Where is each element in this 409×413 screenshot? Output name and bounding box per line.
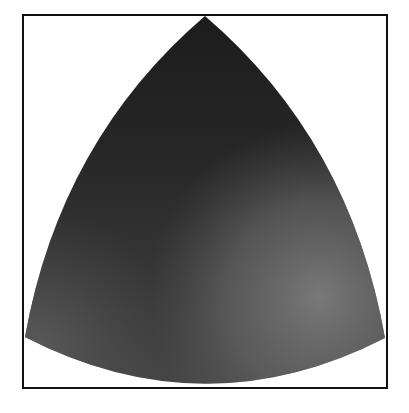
spherical-triangle-plot xyxy=(0,0,409,413)
shaded-region xyxy=(0,0,409,413)
figure-canvas xyxy=(0,0,409,413)
